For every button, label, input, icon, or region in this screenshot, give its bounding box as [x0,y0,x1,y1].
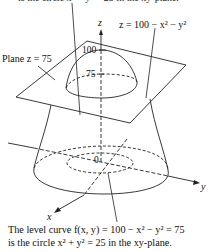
caption-line-1: The level curve f(x, y) = 100 − x² − y² … [8,224,210,237]
plane-label: Plane z = 75 [2,53,52,64]
tick-label-100: 100 [82,45,97,55]
level-curve-circle [67,153,133,173]
origin-label: 0 [94,155,99,165]
tick-label-75: 75 [86,69,96,79]
paraboloid-level-curve-diagram: z z = 100 − x² − y² Plane z = 75 100 75 … [0,0,210,252]
caption-line-2: is the circle x² + y² = 25 in the xy-pla… [8,237,210,250]
y-axis-label: y [200,181,206,192]
surface-equation-label: z = 100 − x² − y² [119,19,186,30]
x-axis-label: x [46,211,52,222]
figure-caption: The level curve f(x, y) = 100 − x² − y² … [8,224,210,249]
leader-lines [38,3,155,222]
z-axis-label: z [97,17,102,28]
